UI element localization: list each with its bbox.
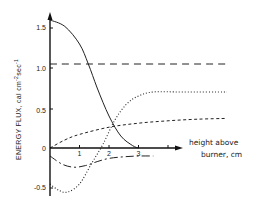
x-tick-label: 1	[78, 150, 82, 157]
y-axis-label: ENERGY FLUX, cal cm-2sec-1	[13, 59, 22, 160]
y-tick-label: 0.5	[36, 107, 46, 114]
x-tick-label: 3	[137, 150, 141, 157]
y-axis-arrow	[48, 12, 53, 20]
y-tick-label: -0.5	[34, 184, 46, 191]
x-tick-label: 2	[107, 150, 111, 157]
series-dash-dot	[50, 156, 153, 167]
plot-area	[50, 20, 227, 192]
x-axis-arrow	[175, 146, 183, 151]
series-solid	[50, 20, 139, 148]
y-tick-label: 1.0	[36, 65, 46, 72]
y-tick-labels: 1.5 1.0 0.5 0 -0.5	[34, 24, 46, 191]
y-tick-label: 1.5	[36, 24, 46, 31]
x-axis-label-line2: burner, cm	[201, 150, 242, 159]
x-axis-label-line1: height above	[189, 138, 239, 147]
y-tick-label: 0	[42, 145, 46, 152]
energy-flux-chart: 1.5 1.0 0.5 0 -0.5 1 2 3 ENERGY FLUX, ca…	[0, 0, 255, 202]
